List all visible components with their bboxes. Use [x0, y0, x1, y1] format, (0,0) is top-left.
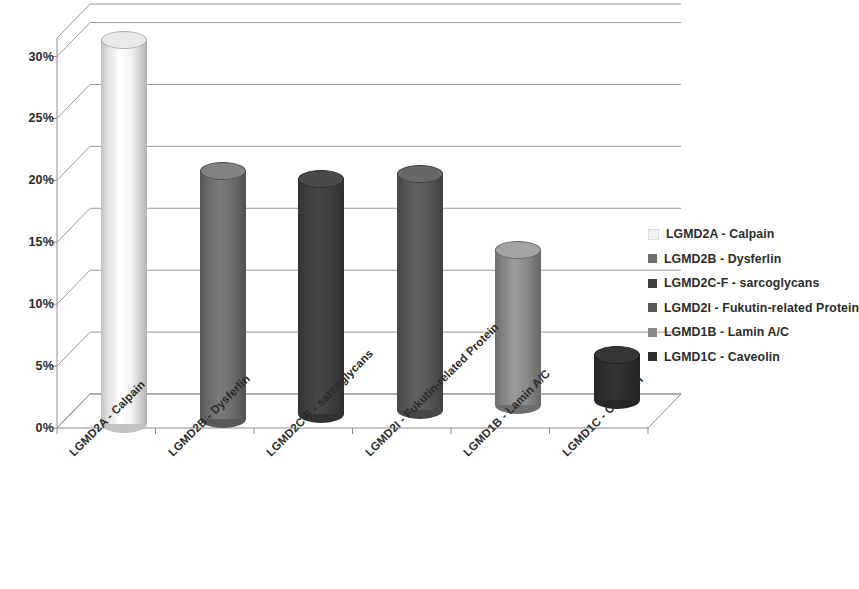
x-axis-tick-label: LGMD1B - Lamin A/C [461, 367, 552, 458]
legend-swatch-icon [648, 279, 657, 288]
legend-swatch-icon [648, 254, 657, 263]
legend-item-label: LGMD2A - Calpain [666, 227, 774, 241]
legend-swatch-icon [648, 328, 657, 337]
legend-swatch-icon [648, 229, 659, 240]
x-axis-tick-label: LGMD2A - Calpain [67, 378, 147, 458]
legend-item-label: LGMD2B - Dysferlin [664, 252, 781, 266]
legend-item-label: LGMD2C-F - sarcoglycans [664, 276, 819, 290]
legend-item-0[interactable]: LGMD2A - Calpain [648, 222, 858, 247]
legend: LGMD2A - CalpainLGMD2B - DysferlinLGMD2C… [648, 222, 858, 369]
legend-item-5[interactable]: LGMD1C - Caveolin [648, 345, 858, 370]
legend-item-label: LGMD2I - Fukutin-related Protein [664, 301, 859, 315]
legend-item-3[interactable]: LGMD2I - Fukutin-related Protein [648, 296, 858, 321]
legend-swatch-icon [648, 352, 657, 361]
legend-item-label: LGMD1B - Lamin A/C [664, 325, 789, 339]
legend-item-2[interactable]: LGMD2C-F - sarcoglycans [648, 271, 858, 296]
chart-container: 0%5%10%15%20%25%30% LGMD2A - CalpainLGMD… [0, 0, 859, 589]
legend-item-1[interactable]: LGMD2B - Dysferlin [648, 247, 858, 272]
x-axis-tick-label: LGMD2B - Dysferlin [166, 372, 252, 458]
legend-swatch-icon [648, 303, 657, 312]
legend-item-label: LGMD1C - Caveolin [664, 350, 780, 364]
legend-item-4[interactable]: LGMD1B - Lamin A/C [648, 320, 858, 345]
x-axis-tick-label: LGMD2C-F - sarcoglycans [264, 347, 375, 458]
x-axis-tick-label: LGMD1C - Caveolin [560, 373, 645, 458]
